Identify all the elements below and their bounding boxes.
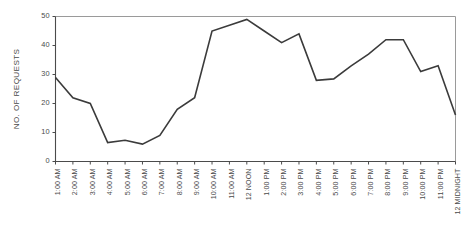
data-series-line xyxy=(56,19,456,144)
y-axis-tick-labels: 01020304050 xyxy=(41,11,49,165)
y-tick-label: 20 xyxy=(41,98,49,107)
x-tick-label: 10:00 PM xyxy=(419,169,427,200)
x-tick-label: 1:00 AM xyxy=(54,169,62,196)
x-tick-label: 7:00 PM xyxy=(367,169,375,196)
y-tick-label: 40 xyxy=(41,40,49,49)
x-tick-label: 8:00 AM xyxy=(176,169,184,196)
x-tick-label: 8:00 PM xyxy=(384,169,392,196)
x-tick-label: 6:00 PM xyxy=(350,169,358,196)
x-tick-label: 2:00 AM xyxy=(71,169,79,196)
x-tick-label: 2:00 PM xyxy=(280,169,288,196)
line-chart: 01020304050 1:00 AM2:00 AM3:00 AM4:00 AM… xyxy=(0,0,471,241)
x-tick-label: 3:00 AM xyxy=(89,169,97,196)
x-tick-label: 5:00 AM xyxy=(124,169,132,196)
x-tick-label: 12 MIDNIGHT xyxy=(454,168,462,215)
x-tick-label: 7:00 AM xyxy=(158,169,166,196)
x-tick-label: 9:00 PM xyxy=(402,169,410,196)
x-tick-label: 4:00 AM xyxy=(106,169,114,196)
y-tick-label: 10 xyxy=(41,127,49,136)
y-tick-label: 30 xyxy=(41,69,49,78)
x-tick-label: 10:00 AM xyxy=(210,169,218,200)
x-tick-label: 5:00 PM xyxy=(332,169,340,196)
x-tick-label: 6:00 AM xyxy=(141,169,149,196)
axis-left-bottom xyxy=(56,17,456,162)
x-tick-label: 12 NOON xyxy=(245,169,253,201)
y-tick-label: 50 xyxy=(41,11,49,20)
y-tick-label: 0 xyxy=(45,156,49,165)
x-tick-label: 1:00 PM xyxy=(263,169,271,196)
y-axis-title: NO. OF REQUESTS xyxy=(12,48,21,129)
plot-frame xyxy=(56,17,456,162)
x-tick-label: 11:00 PM xyxy=(437,169,445,200)
chart-canvas: 01020304050 1:00 AM2:00 AM3:00 AM4:00 AM… xyxy=(0,0,471,241)
x-tick-label: 9:00 AM xyxy=(193,169,201,196)
x-tick-label: 11:00 AM xyxy=(228,169,236,199)
x-axis-tick-labels: 1:00 AM2:00 AM3:00 AM4:00 AM5:00 AM6:00 … xyxy=(54,168,462,215)
frame-top-right xyxy=(56,17,456,162)
x-tick-label: 4:00 PM xyxy=(315,169,323,196)
x-tick-label: 3:00 PM xyxy=(297,169,305,196)
